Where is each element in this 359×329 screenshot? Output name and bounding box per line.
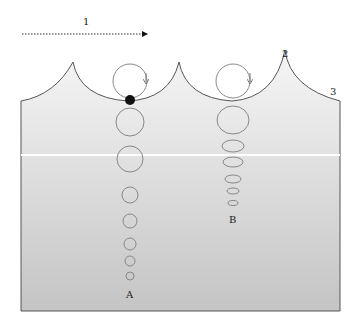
label-b: B [229, 214, 236, 225]
water-particle [125, 95, 135, 105]
label-a: A [125, 289, 134, 300]
wave-orbit-diagram: 1 2 3 A B [0, 0, 359, 329]
label-direction: 1 [83, 16, 89, 27]
label-surface: 3 [330, 86, 336, 97]
water-body [21, 50, 340, 311]
label-crest: 2 [282, 48, 288, 59]
